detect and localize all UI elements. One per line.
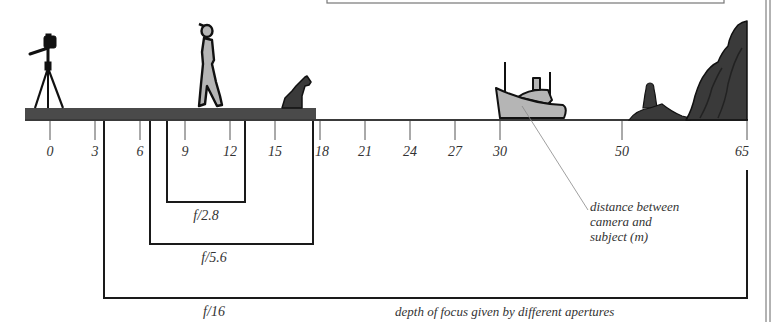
aperture-bracket-f5-6 (150, 121, 313, 244)
aperture-label-f16: f/16 (203, 305, 225, 319)
tick-label-9: 9 (182, 145, 189, 159)
tick-label-0: 0 (47, 145, 54, 159)
tick-label-27: 27 (448, 145, 462, 159)
tick-label-21: 21 (358, 145, 372, 159)
aperture-bracket-f2-8 (167, 121, 245, 202)
axis-caption-line-1: distance between (590, 199, 679, 214)
tick-label-15: 15 (268, 145, 282, 159)
tick-label-50: 50 (615, 145, 629, 159)
tick-label-30: 30 (493, 145, 507, 159)
depth-of-focus-diagram: 0 3 6 9 12 15 18 21 24 27 30 50 65 f/2.8… (0, 0, 777, 322)
tick-label-12: 12 (223, 145, 237, 159)
tick-label-6: 6 (137, 145, 144, 159)
axis-caption-line-2: camera and (590, 214, 679, 229)
aperture-label-f2-8: f/2.8 (193, 209, 218, 223)
tick-label-65: 65 (735, 145, 749, 159)
aperture-label-f5-6: f/5.6 (201, 251, 226, 265)
axis-caption-line-3: subject (m) (590, 229, 679, 244)
axis-caption: distance between camera and subject (m) (590, 199, 679, 244)
tick-label-24: 24 (403, 145, 417, 159)
tick-label-3: 3 (92, 145, 99, 159)
tick-label-18: 18 (315, 145, 329, 159)
diagram-title: depth of focus given by different apertu… (395, 304, 614, 319)
